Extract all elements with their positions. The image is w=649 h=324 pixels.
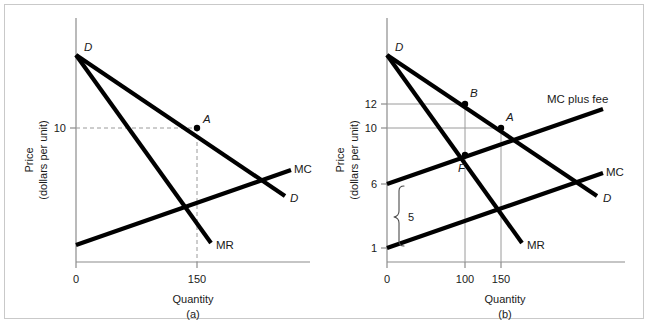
point-label-b-b: B — [470, 87, 478, 99]
x-tick-label-0-a: 0 — [73, 273, 79, 285]
x-tick-label-0-b: 0 — [384, 273, 390, 285]
y-tick-label-6-b: 6 — [371, 178, 377, 190]
point-a-marker-a — [194, 125, 200, 131]
marginal-cost-curve-a — [76, 170, 291, 245]
marginal-cost-label-a: MC — [294, 163, 312, 175]
point-a-marker-b — [498, 125, 504, 131]
point-label-a-a: A — [202, 113, 211, 125]
figure-container: Price (dollars per unit) 10 150 0 Quanti… — [0, 0, 649, 324]
point-label-f-b: F — [458, 162, 466, 174]
marginal-cost-curve-b — [387, 173, 603, 248]
x-tick-label-150-a: 150 — [188, 273, 206, 285]
x-axis-title-b: Quantity — [485, 293, 526, 305]
point-b-marker-b — [462, 101, 468, 107]
panel-caption-b: (b) — [498, 308, 511, 320]
y-tick-label-10-b: 10 — [365, 122, 377, 134]
x-axis-title-a: Quantity — [173, 293, 214, 305]
marginal-revenue-label-a: MR — [216, 239, 234, 251]
y-axis-title-line2-a: (dollars per unit) — [37, 120, 49, 199]
marginal-cost-label-b: MC — [606, 166, 624, 178]
y-tick-label-12-b: 12 — [365, 98, 377, 110]
y-tick-label-1-b: 1 — [371, 242, 377, 254]
marginal-cost-plus-fee-label-b: MC plus fee — [547, 93, 608, 105]
demand-right-label-a: D — [290, 192, 298, 204]
demand-right-label-b: D — [603, 192, 611, 204]
y-axis-title-line1-b: Price — [334, 147, 346, 172]
y-axis-title-line2-b: (dollars per unit) — [348, 120, 360, 199]
demand-curve-a — [76, 55, 285, 196]
panel-b-plot: 5 Price (dollars per unit) 12 10 6 1 0 1… — [325, 0, 649, 324]
point-label-a-b: A — [505, 111, 514, 123]
point-f-marker-b — [462, 152, 468, 158]
panel-b: 5 Price (dollars per unit) 12 10 6 1 0 1… — [325, 0, 649, 324]
y-axis-title-line1-a: Price — [23, 147, 35, 172]
x-tick-label-150-b: 150 — [492, 273, 510, 285]
demand-top-label-a: D — [84, 41, 92, 53]
panel-a: Price (dollars per unit) 10 150 0 Quanti… — [0, 0, 325, 324]
fee-brace-label-b: 5 — [408, 211, 414, 223]
panel-caption-a: (a) — [186, 308, 199, 320]
marginal-cost-plus-fee-curve-b — [387, 109, 603, 184]
y-tick-label-10-a: 10 — [54, 122, 66, 134]
fee-brace-b — [394, 186, 404, 246]
panel-a-plot: Price (dollars per unit) 10 150 0 Quanti… — [0, 0, 325, 324]
marginal-revenue-label-b: MR — [527, 239, 545, 251]
x-tick-label-100-b: 100 — [456, 273, 474, 285]
demand-top-label-b: D — [395, 41, 403, 53]
marginal-revenue-curve-a — [76, 55, 211, 243]
